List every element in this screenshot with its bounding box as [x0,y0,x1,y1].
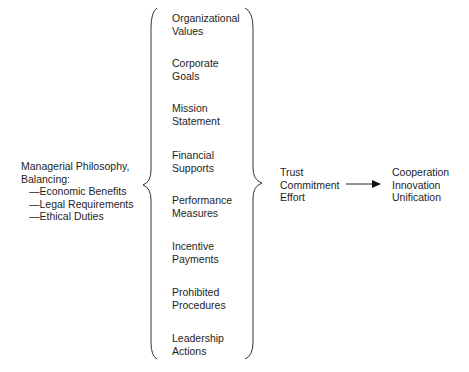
final-outcomes-block: Cooperation Innovation Unification [392,166,449,204]
outcome-innovation: Innovation [392,179,449,192]
component-label: Payments [172,253,219,266]
left-brace-icon [143,8,157,359]
intermediate-effort: Effort [280,191,340,204]
component-leadership-actions: Leadership Actions [172,332,224,357]
component-label: Actions [172,345,224,358]
outcome-cooperation: Cooperation [392,166,449,179]
intermediate-outcomes-block: Trust Commitment Effort [280,166,340,204]
component-label: Corporate [172,57,219,70]
component-label: Organizational [172,12,240,25]
right-brace-icon [245,8,262,359]
component-label: Goals [172,70,219,83]
component-label: Mission [172,102,220,115]
component-label: Performance [172,194,232,207]
component-label: Supports [172,162,214,175]
component-mission-statement: Mission Statement [172,102,220,127]
managerial-philosophy-block: Managerial Philosophy, Balancing: —Econo… [21,160,133,223]
component-label: Procedures [172,299,226,312]
philosophy-subtitle: Balancing: [21,173,133,186]
intermediate-trust: Trust [280,166,340,179]
component-performance-measures: Performance Measures [172,194,232,219]
component-organizational-values: Organizational Values [172,12,240,37]
component-label: Measures [172,207,232,220]
intermediate-commitment: Commitment [280,179,340,192]
component-label: Statement [172,115,220,128]
philosophy-item-economic: —Economic Benefits [21,185,133,198]
component-label: Incentive [172,240,219,253]
component-label: Leadership [172,332,224,345]
outcome-unification: Unification [392,191,449,204]
component-financial-supports: Financial Supports [172,149,214,174]
philosophy-item-ethical: —Ethical Duties [21,210,133,223]
component-label: Prohibited [172,286,226,299]
component-label: Values [172,25,240,38]
component-label: Financial [172,149,214,162]
arrow-head-icon [372,180,381,188]
philosophy-item-legal: —Legal Requirements [21,198,133,211]
philosophy-title: Managerial Philosophy, [21,160,133,173]
component-prohibited-procedures: Prohibited Procedures [172,286,226,311]
component-incentive-payments: Incentive Payments [172,240,219,265]
component-corporate-goals: Corporate Goals [172,57,219,82]
